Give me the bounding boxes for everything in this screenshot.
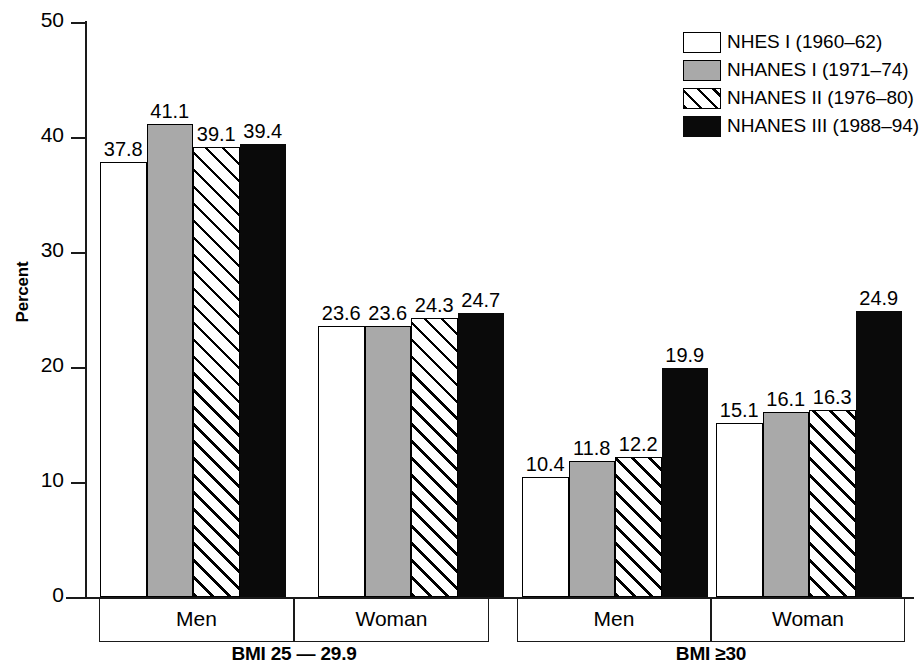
legend-swatch-icon	[683, 60, 721, 81]
legend-item-nhanes-iii: NHANES III (1988–94)	[683, 112, 919, 140]
legend-label: NHANES I (1971–74)	[727, 60, 909, 80]
legend-label: NHANES II (1976–80)	[727, 88, 914, 108]
bar	[365, 326, 412, 597]
legend-label: NHES I (1960–62)	[727, 32, 882, 52]
bar	[240, 144, 287, 597]
bar	[716, 423, 763, 597]
panel-label-obese: BMI ≥30	[517, 644, 905, 664]
legend-item-nhanes-ii: NHANES II (1976–80)	[683, 84, 919, 112]
bar	[809, 410, 856, 597]
bar	[411, 318, 458, 597]
bar-value-label: 12.2	[608, 434, 669, 454]
bar-value-label: 16.3	[802, 387, 863, 407]
category-label-woman-obese: Woman	[711, 606, 905, 632]
bar-value-label: 24.9	[849, 288, 910, 308]
bar	[147, 124, 194, 597]
bar-value-label: 24.7	[451, 290, 512, 310]
category-label-men-overweight: Men	[99, 606, 294, 632]
bar	[662, 368, 709, 597]
bar	[193, 147, 240, 597]
bar	[615, 457, 662, 597]
bar	[458, 313, 505, 597]
bar-value-label: 39.4	[233, 121, 294, 141]
bar-value-label: 41.1	[140, 101, 201, 121]
legend-label: NHANES III (1988–94)	[727, 116, 919, 136]
legend-swatch-icon	[683, 32, 721, 53]
legend-swatch-icon	[683, 88, 721, 109]
bar	[856, 311, 903, 597]
bar	[100, 162, 147, 597]
panel-label-overweight: BMI 25 — 29.9	[99, 644, 489, 664]
bar-value-label: 37.8	[93, 139, 154, 159]
bar-value-label: 19.9	[655, 345, 716, 365]
bar	[522, 477, 569, 597]
bar	[318, 326, 365, 597]
legend-item-nhanes-i: NHANES I (1971–74)	[683, 56, 919, 84]
category-label-woman-overweight: Woman	[294, 606, 489, 632]
bar	[569, 461, 616, 597]
bar	[763, 412, 810, 597]
legend-swatch-icon	[683, 116, 721, 137]
legend: NHES I (1960–62) NHANES I (1971–74) NHAN…	[683, 28, 919, 140]
legend-item-nhes-i: NHES I (1960–62)	[683, 28, 919, 56]
category-label-men-obese: Men	[517, 606, 711, 632]
